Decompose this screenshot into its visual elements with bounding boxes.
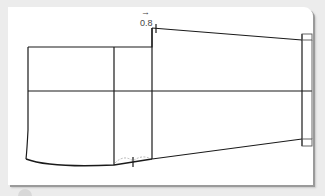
measurement-label: 0.8: [140, 18, 153, 28]
pattern-diagram: 0.8 →: [0, 0, 325, 196]
pattern-taper-top: [152, 28, 302, 40]
pattern-taper-bottom: [152, 139, 302, 159]
pattern-outline-left: [28, 28, 152, 47]
cuff-slit-bottom: [302, 139, 312, 146]
pattern-left-edge: [26, 47, 28, 159]
cuff-slit-top: [302, 34, 312, 40]
step-number-marker: [18, 189, 32, 196]
arrow-right-icon: →: [141, 7, 150, 17]
